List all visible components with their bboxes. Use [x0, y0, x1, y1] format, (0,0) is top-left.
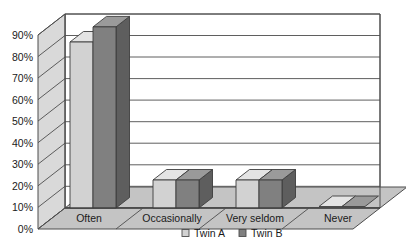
- bar-very-seldom-twin-b[interactable]: [259, 170, 296, 209]
- bar-often-twin-b[interactable]: [93, 16, 130, 208]
- bar-right-face: [116, 16, 130, 208]
- bar-chart-3d: 90% 80% 70% 60% 50% 40% 30% 20% 10% 0% O…: [0, 0, 406, 250]
- bar-front-face: [236, 180, 259, 208]
- y-axis-labels: 90% 80% 70% 60% 50% 40% 30% 20% 10% 0%: [12, 29, 33, 235]
- y-tick-label: 50%: [12, 115, 33, 127]
- bar-front-face: [70, 42, 93, 208]
- legend-swatch-icon: [182, 230, 189, 237]
- legend-label: Twin A: [194, 227, 225, 239]
- y-tick-label: 20%: [12, 180, 33, 192]
- y-tick-label: 30%: [12, 158, 33, 170]
- x-tick-label: Occasionally: [142, 212, 202, 224]
- y-tick-label: 40%: [12, 137, 33, 149]
- chart-container: 90% 80% 70% 60% 50% 40% 30% 20% 10% 0% O…: [0, 0, 406, 250]
- bar-front-face: [153, 180, 176, 208]
- y-tick-label: 0%: [18, 223, 33, 235]
- bar-occasionally-twin-b[interactable]: [176, 170, 213, 209]
- x-tick-label: Very seldom: [226, 212, 284, 224]
- x-tick-label: Often: [76, 212, 102, 224]
- x-tick-label: Never: [324, 212, 353, 224]
- bar-front-face: [93, 27, 116, 208]
- legend-swatch-icon: [239, 230, 246, 237]
- bar-front-face: [176, 180, 199, 208]
- legend-label: Twin B: [251, 227, 283, 239]
- y-tick-label: 90%: [12, 29, 33, 41]
- y-tick-label: 10%: [12, 201, 33, 213]
- y-tick-label: 70%: [12, 72, 33, 84]
- y-tick-label: 80%: [12, 51, 33, 63]
- y-tick-label: 60%: [12, 94, 33, 106]
- bar-front-face: [259, 180, 282, 208]
